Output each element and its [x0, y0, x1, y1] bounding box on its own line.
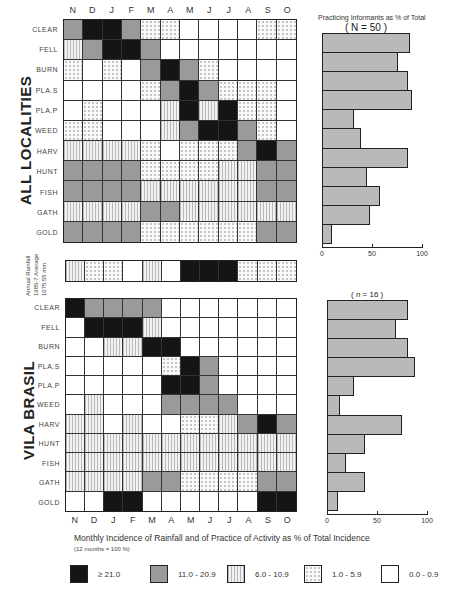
heatmap-cell	[64, 222, 83, 242]
heatmap-cell	[199, 81, 218, 101]
heatmap-cell	[258, 472, 277, 491]
heatmap-all-localities	[63, 19, 297, 243]
month-axis-top: NDJFMAMJJASO	[63, 5, 297, 15]
heatmap-cell	[181, 299, 200, 318]
month-label: S	[258, 5, 278, 15]
heatmap-cell	[161, 20, 180, 40]
heatmap-cell	[64, 141, 83, 161]
heatmap-cell	[277, 20, 296, 40]
heatmap-cell	[123, 357, 142, 376]
bar-pla-s	[327, 357, 415, 377]
heatmap-cell	[103, 40, 122, 60]
heatmap-cell	[257, 202, 276, 222]
heatmap-cell	[122, 40, 141, 60]
heatmap-cell	[143, 357, 162, 376]
heatmap-cell	[123, 472, 142, 491]
heatmap-cell	[162, 376, 181, 395]
heatmap-cell	[66, 357, 85, 376]
legend-swatch	[304, 565, 322, 583]
heatmap-cell	[66, 395, 85, 414]
heatmap-cell	[199, 20, 218, 40]
axis-tick-label: 0	[325, 517, 329, 524]
heatmap-cell	[122, 161, 141, 181]
heatmap-cell	[238, 202, 257, 222]
bar-gath	[322, 205, 370, 225]
row-label: HUNT	[22, 434, 60, 453]
heatmap-cell	[238, 60, 257, 80]
caption-title: Monthly Incidence of Rainfall and of Pra…	[74, 533, 370, 543]
legend-label: 0.0 - 0.9	[409, 570, 438, 579]
axis-tick	[422, 244, 423, 248]
heatmap-cell	[141, 222, 160, 242]
heatmap-cell	[219, 472, 238, 491]
bar-y-axis	[322, 33, 323, 247]
heatmap-cell	[143, 261, 162, 281]
heatmap-cell	[161, 81, 180, 101]
heatmap-cell	[83, 181, 102, 201]
bar-chart-header: Practicing Informants as % of Total	[318, 14, 426, 21]
heatmap-cell	[277, 261, 296, 281]
heatmap-cell	[123, 318, 142, 337]
heatmap-cell	[277, 40, 296, 60]
heatmap-cell	[258, 376, 277, 395]
heatmap-cell	[143, 376, 162, 395]
heatmap-cell	[103, 141, 122, 161]
month-label: A	[162, 515, 181, 525]
heatmap-cell	[66, 299, 85, 318]
heatmap-cell	[219, 40, 238, 60]
heatmap-cell	[162, 318, 181, 337]
bar-clear	[327, 300, 408, 320]
heatmap-cell	[181, 453, 200, 472]
legend-label: 11.0 - 20.9	[178, 570, 216, 579]
heatmap-cell	[257, 181, 276, 201]
heatmap-cell	[219, 202, 238, 222]
bar-clear	[322, 33, 410, 53]
month-label: J	[200, 5, 220, 15]
axis-tick-label: 50	[373, 517, 381, 524]
legend-swatch	[70, 565, 88, 583]
heatmap-cell	[258, 338, 277, 357]
heatmap-cell	[257, 101, 276, 121]
heatmap-cell	[199, 40, 218, 60]
axis-tick	[427, 511, 428, 515]
heatmap-cell	[219, 299, 238, 318]
heatmap-cell	[277, 338, 296, 357]
bar-hunt	[322, 167, 367, 187]
heatmap-cell	[161, 202, 180, 222]
heatmap-cell	[277, 202, 296, 222]
heatmap-cell	[277, 434, 296, 453]
row-label: FELL	[22, 317, 60, 336]
month-label: A	[239, 515, 258, 525]
rainfall-label-line3: 1075.55 mm	[40, 254, 48, 296]
heatmap-cell	[277, 415, 296, 434]
heatmap-cell	[161, 40, 180, 60]
heatmap-cell	[181, 261, 200, 281]
heatmap-cell	[103, 161, 122, 181]
heatmap-cell	[277, 121, 296, 141]
heatmap-cell	[277, 492, 296, 511]
heatmap-cell	[85, 395, 104, 414]
month-label: F	[122, 5, 142, 15]
heatmap-cell	[64, 181, 83, 201]
heatmap-cell	[277, 81, 296, 101]
legend-item-v: 6.0 - 10.9	[227, 565, 289, 583]
heatmap-cell	[238, 415, 257, 434]
month-label: A	[161, 5, 181, 15]
heatmap-cell	[123, 434, 142, 453]
heatmap-cell	[199, 161, 218, 181]
heatmap-cell	[83, 121, 102, 141]
heatmap-cell	[219, 318, 238, 337]
heatmap-cell	[64, 121, 83, 141]
heatmap-cell	[103, 202, 122, 222]
heatmap-cell	[238, 395, 257, 414]
heatmap-cell	[199, 101, 218, 121]
bar-fell	[327, 319, 396, 339]
bar-chart-vila: 050100	[327, 300, 427, 510]
row-label: BURN	[20, 60, 58, 80]
heatmap-cell	[238, 434, 257, 453]
heatmap-cell	[85, 357, 104, 376]
heatmap-cell	[277, 181, 296, 201]
month-label: O	[278, 515, 297, 525]
heatmap-cell	[85, 492, 104, 511]
rainfall-label-line2: 1985-7 Average	[32, 254, 40, 296]
